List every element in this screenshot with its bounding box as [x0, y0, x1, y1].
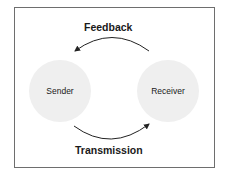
transmission-label: Transmission: [75, 144, 143, 156]
receiver-label: Receiver: [151, 86, 185, 96]
sender-label: Sender: [46, 86, 73, 96]
sender-node: Sender: [29, 60, 91, 122]
receiver-node: Receiver: [137, 60, 199, 122]
feedback-label: Feedback: [84, 21, 132, 33]
